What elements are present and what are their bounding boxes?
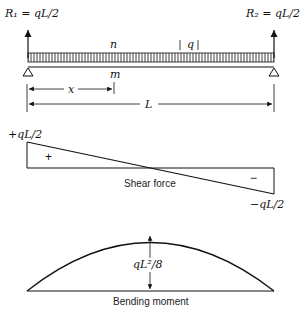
shear-caption: Shear force xyxy=(124,178,176,189)
length-label: L xyxy=(144,98,152,111)
point-n-label: n xyxy=(110,38,117,51)
moment-peak-label: qL²/8 xyxy=(133,258,162,271)
x-dimension: x xyxy=(27,82,114,112)
shear-min-label: −qL/2 xyxy=(250,198,284,211)
right-reaction: R₂ = qL/2 xyxy=(245,7,300,58)
x-label: x xyxy=(68,83,75,96)
shear-max-label: +qL/2 xyxy=(8,128,42,141)
negative-sign: − xyxy=(250,171,257,185)
moment-caption: Bending moment xyxy=(113,296,189,307)
right-support-icon xyxy=(269,68,279,76)
left-reaction: R₁ = qL/2 xyxy=(4,7,59,58)
left-support-icon xyxy=(23,68,33,76)
length-dimension: L xyxy=(29,84,274,112)
shear-force-diagram: +qL/2 + − Shear force −qL/2 xyxy=(8,128,284,211)
distributed-load: q n xyxy=(28,38,274,62)
beam-diagram: R₁ = qL/2 R₂ = qL/2 q n m x L +qL/2 xyxy=(0,0,303,316)
load-label: q xyxy=(187,38,194,51)
point-m-label: m xyxy=(110,68,120,81)
positive-sign: + xyxy=(45,150,52,164)
left-reaction-label: R₁ = qL/2 xyxy=(4,7,59,20)
right-reaction-label: R₂ = qL/2 xyxy=(245,7,300,20)
bending-moment-diagram: qL²/8 Bending moment xyxy=(27,236,274,307)
